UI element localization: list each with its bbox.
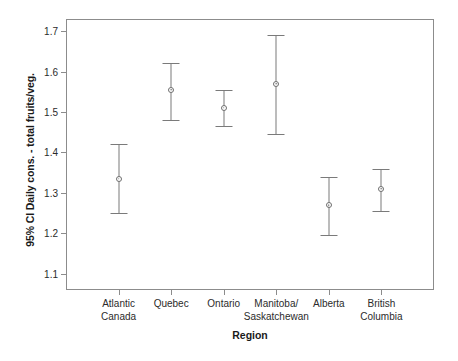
errorbar-group <box>317 177 341 236</box>
errorbar-group <box>107 144 131 213</box>
errorbar-cap-lower <box>373 211 390 212</box>
errorbar-cap-upper <box>163 63 180 64</box>
y-tick-label: 1.7 <box>14 26 58 37</box>
data-point-center-dot <box>276 83 278 85</box>
x-tick-mark <box>381 290 382 295</box>
y-tick-mark <box>61 274 66 275</box>
chart-figure: 95% CI Daily cons. - total fruits/veg. 1… <box>0 0 458 361</box>
x-tick-mark <box>171 290 172 295</box>
errorbar-cap-upper <box>320 177 337 178</box>
errorbar-cap-upper <box>268 35 285 36</box>
errorbar-cap-upper <box>110 144 127 145</box>
y-tick-label: 1.5 <box>14 107 58 118</box>
y-tick-mark <box>61 152 66 153</box>
y-tick-label: 1.4 <box>14 147 58 158</box>
data-point-center-dot <box>170 89 172 91</box>
x-tick-mark <box>276 290 277 295</box>
x-axis-title: Region <box>66 329 434 341</box>
errorbar-group <box>264 35 288 134</box>
y-tick-label: 1.2 <box>14 228 58 239</box>
data-point-center-dot <box>381 188 383 190</box>
y-tick-mark <box>61 31 66 32</box>
x-tick-mark <box>119 290 120 295</box>
data-point-marker <box>168 87 174 93</box>
errorbar-cap-lower <box>110 213 127 214</box>
errorbar-cap-lower <box>320 235 337 236</box>
x-tick-mark <box>224 290 225 295</box>
errorbar-group <box>369 169 393 211</box>
x-tick-mark <box>329 290 330 295</box>
data-point-center-dot <box>223 107 225 109</box>
y-tick-label: 1.6 <box>14 66 58 77</box>
x-tick-label: BritishColumbia <box>335 298 427 323</box>
data-point-marker <box>221 105 227 111</box>
y-tick-mark <box>61 193 66 194</box>
errorbar-group <box>159 63 183 120</box>
errorbar-cap-lower <box>163 120 180 121</box>
data-point-marker <box>116 176 122 182</box>
y-tick-mark <box>61 72 66 73</box>
data-point-marker <box>378 186 384 192</box>
y-tick-mark <box>61 112 66 113</box>
x-tick-label-line: British <box>335 298 427 311</box>
data-point-center-dot <box>118 178 120 180</box>
errorbar-cap-lower <box>215 126 232 127</box>
data-point-marker <box>326 202 332 208</box>
y-tick-label: 1.1 <box>14 268 58 279</box>
data-point-center-dot <box>328 204 330 206</box>
x-tick-label-line: Columbia <box>335 311 427 324</box>
errorbar-cap-lower <box>268 134 285 135</box>
errorbar-group <box>212 90 236 126</box>
y-tick-label: 1.3 <box>14 187 58 198</box>
y-tick-mark <box>61 233 66 234</box>
errorbar-cap-upper <box>373 169 390 170</box>
errorbar-cap-upper <box>215 90 232 91</box>
data-point-marker <box>273 81 279 87</box>
